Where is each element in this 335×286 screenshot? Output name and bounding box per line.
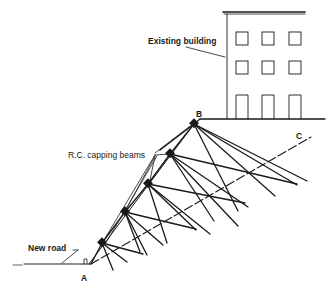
label-existing-building: Existing building <box>148 36 216 46</box>
label-point-a: A <box>81 273 87 283</box>
slope-stabilisation-diagram: Existing building R.C. capping beams New… <box>0 0 335 286</box>
label-point-c: C <box>296 131 302 141</box>
existing-building <box>223 12 305 119</box>
anchors-node-2 <box>170 124 297 226</box>
label-new-road: New road <box>28 243 66 253</box>
label-capping-beams: R.C. capping beams <box>68 150 145 160</box>
building-leader <box>186 47 225 57</box>
anchors-node-3 <box>148 154 245 243</box>
label-point-b: B <box>196 109 202 119</box>
